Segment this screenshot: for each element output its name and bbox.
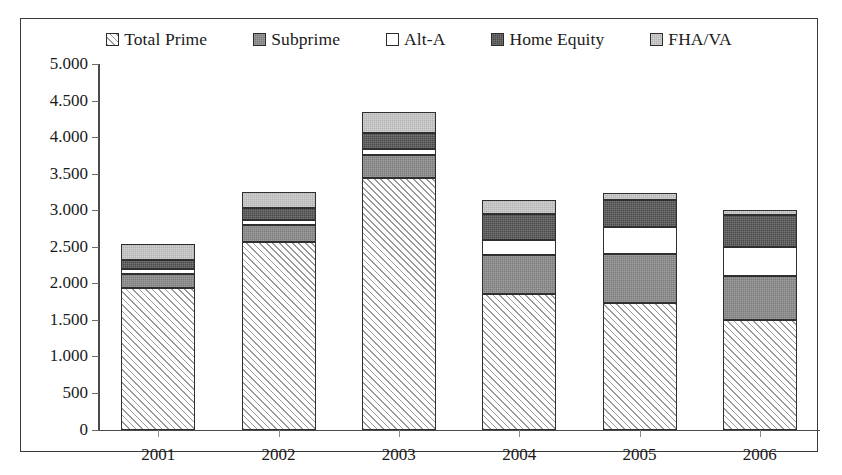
bar-segment-subprime-2006[interactable] xyxy=(723,276,797,320)
y-axis-tick-label: 1.000 xyxy=(18,346,88,366)
y-axis-tick xyxy=(92,356,99,357)
y-axis-tick xyxy=(92,174,99,175)
legend-label-home-equity: Home Equity xyxy=(509,29,604,50)
x-axis-tick xyxy=(760,430,761,437)
y-axis-tick xyxy=(92,393,99,394)
bar-segment-home-equity-2004[interactable] xyxy=(482,214,556,240)
bar-segment-alt-a-2006[interactable] xyxy=(723,247,797,276)
legend-item-home-equity: Home Equity xyxy=(491,29,604,50)
bar-segment-fha-va-2003[interactable] xyxy=(362,112,436,133)
y-axis-tick-label: 3.500 xyxy=(18,164,88,184)
x-axis-tick-label: 2006 xyxy=(743,445,777,465)
bar-segment-alt-a-2005[interactable] xyxy=(603,227,677,255)
y-axis-tick-label: 4.500 xyxy=(18,91,88,111)
y-axis-tick-label: 0 xyxy=(18,420,88,440)
x-axis-tick-label: 2004 xyxy=(502,445,536,465)
legend-swatch-alt-a-icon xyxy=(386,33,399,46)
legend-label-subprime: Subprime xyxy=(271,29,340,50)
bar-segment-home-equity-2003[interactable] xyxy=(362,133,436,149)
bar-segment-total-prime-2006[interactable] xyxy=(723,320,797,430)
x-axis-tick-label: 2002 xyxy=(262,445,296,465)
bar-segment-home-equity-2001[interactable] xyxy=(121,260,195,270)
legend-swatch-fha-va-icon xyxy=(650,33,663,46)
bar-segment-total-prime-2001[interactable] xyxy=(121,288,195,430)
y-axis-tick xyxy=(92,430,99,431)
bar-segment-home-equity-2005[interactable] xyxy=(603,200,677,226)
chart-frame: Total Prime Subprime Alt-A Home Equity F… xyxy=(20,18,818,452)
y-axis-tick-label: 3.000 xyxy=(18,200,88,220)
bar-segment-subprime-2001[interactable] xyxy=(121,274,195,288)
plot-area: 05001.0001.5002.0002.5003.0003.5004.0004… xyxy=(98,64,820,431)
legend-item-fha-va: FHA/VA xyxy=(650,29,732,50)
bar-segment-home-equity-2006[interactable] xyxy=(723,215,797,246)
x-axis-tick-label: 2003 xyxy=(382,445,416,465)
x-axis-tick xyxy=(279,430,280,437)
y-axis-tick xyxy=(92,283,99,284)
bar-segment-fha-va-2002[interactable] xyxy=(242,192,316,208)
x-axis-tick xyxy=(399,430,400,437)
bar-2004[interactable] xyxy=(482,200,556,430)
y-axis-tick-label: 2.000 xyxy=(18,273,88,293)
bar-segment-total-prime-2004[interactable] xyxy=(482,294,556,429)
bar-2005[interactable] xyxy=(603,193,677,430)
legend-swatch-total-prime-icon xyxy=(106,33,119,46)
legend-label-alt-a: Alt-A xyxy=(404,29,445,50)
y-axis-tick-label: 500 xyxy=(18,383,88,403)
legend-item-alt-a: Alt-A xyxy=(386,29,445,50)
bar-segment-fha-va-2001[interactable] xyxy=(121,244,195,260)
bar-2003[interactable] xyxy=(362,112,436,430)
chart-legend: Total Prime Subprime Alt-A Home Equity F… xyxy=(21,29,817,50)
x-axis-tick xyxy=(640,430,641,437)
y-axis-tick-label: 4.000 xyxy=(18,127,88,147)
y-axis-tick xyxy=(92,320,99,321)
bar-2001[interactable] xyxy=(121,244,195,429)
bar-segment-fha-va-2006[interactable] xyxy=(723,210,797,215)
bar-segment-subprime-2002[interactable] xyxy=(242,225,316,242)
y-axis-tick-label: 1.500 xyxy=(18,310,88,330)
y-axis-tick xyxy=(92,137,99,138)
y-axis-tick xyxy=(92,210,99,211)
bar-segment-subprime-2003[interactable] xyxy=(362,155,436,178)
bar-segment-alt-a-2004[interactable] xyxy=(482,240,556,255)
legend-swatch-home-equity-icon xyxy=(491,33,504,46)
x-axis-line xyxy=(98,430,820,432)
legend-label-fha-va: FHA/VA xyxy=(668,29,732,50)
y-axis-tick xyxy=(92,101,99,102)
y-axis-tick xyxy=(92,247,99,248)
bar-2002[interactable] xyxy=(242,192,316,430)
bar-segment-alt-a-2003[interactable] xyxy=(362,149,436,155)
bar-segment-fha-va-2004[interactable] xyxy=(482,200,556,214)
legend-item-subprime: Subprime xyxy=(253,29,340,50)
bar-segment-total-prime-2002[interactable] xyxy=(242,242,316,430)
bar-segment-subprime-2005[interactable] xyxy=(603,254,677,303)
x-axis-tick xyxy=(519,430,520,437)
bar-segment-fha-va-2005[interactable] xyxy=(603,193,677,201)
bar-segment-total-prime-2003[interactable] xyxy=(362,178,436,429)
x-axis-tick xyxy=(158,430,159,437)
x-axis-tick-label: 2005 xyxy=(623,445,657,465)
bar-segment-alt-a-2001[interactable] xyxy=(121,269,195,273)
bar-segment-home-equity-2002[interactable] xyxy=(242,208,316,220)
y-axis-tick-label: 5.000 xyxy=(18,54,88,74)
bar-segment-total-prime-2005[interactable] xyxy=(603,303,677,429)
bar-2006[interactable] xyxy=(723,210,797,430)
legend-item-total-prime: Total Prime xyxy=(106,29,207,50)
bar-segment-alt-a-2002[interactable] xyxy=(242,220,316,225)
y-axis-tick-label: 2.500 xyxy=(18,237,88,257)
legend-swatch-subprime-icon xyxy=(253,33,266,46)
x-axis-tick-label: 2001 xyxy=(141,445,175,465)
bar-segment-subprime-2004[interactable] xyxy=(482,255,556,294)
legend-label-total-prime: Total Prime xyxy=(124,29,207,50)
y-axis-tick xyxy=(92,64,99,65)
